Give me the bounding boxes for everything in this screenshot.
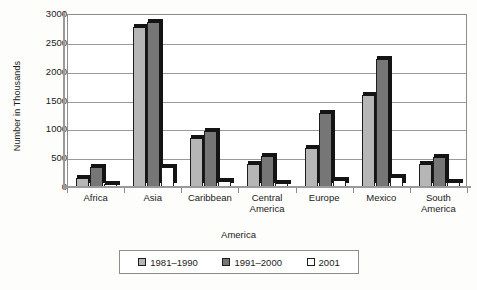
bars-layer (67, 14, 467, 187)
bar-group (67, 14, 124, 187)
bar (433, 157, 446, 187)
y-axis-tick-label: 0 (33, 182, 67, 192)
legend-swatch-icon (138, 258, 146, 266)
x-axis-tick-mark (410, 188, 411, 193)
x-axis-tick-mark (181, 188, 182, 193)
y-axis-ticks: 050010001500200025003000 (27, 14, 67, 187)
bar (376, 59, 389, 187)
x-axis-tick-label: SouthAmerica (403, 192, 473, 214)
legend-swatch-icon (222, 258, 230, 266)
y-axis-title: Number in Thousands (10, 36, 24, 176)
bar (261, 156, 274, 187)
chart-legend: 1981–1990 1991–2000 2001 (119, 250, 359, 274)
bar (204, 131, 217, 188)
legend-label: 1981–1990 (150, 257, 198, 268)
bar (90, 167, 103, 187)
x-axis-tick-mark (238, 188, 239, 193)
legend-item: 2001 (307, 257, 340, 268)
bar (161, 167, 174, 187)
bar-group (238, 14, 295, 187)
bar (147, 22, 160, 187)
legend-label: 2001 (319, 257, 340, 268)
bar-group (296, 14, 353, 187)
legend-swatch-icon (307, 258, 315, 266)
x-axis-tick-mark (353, 188, 354, 193)
y-axis-tick-label: 1000 (33, 124, 67, 134)
y-axis-line (63, 12, 65, 190)
x-axis-tick-mark (296, 188, 297, 193)
bar (419, 164, 432, 187)
y-axis-tick-label: 1500 (33, 96, 67, 106)
bar (305, 148, 318, 187)
bar-group (181, 14, 238, 187)
x-axis-tick-mark (467, 188, 468, 193)
bar-group (410, 14, 467, 187)
y-axis-tick-label: 2500 (33, 38, 67, 48)
x-axis-tick-mark (67, 188, 68, 193)
bar (190, 138, 203, 187)
bar (247, 164, 260, 187)
legend-item: 1991–2000 (222, 257, 282, 268)
legend-label: 1991–2000 (234, 257, 282, 268)
y-axis-tick-label: 500 (33, 153, 67, 163)
bar (362, 95, 375, 187)
bar-group (353, 14, 410, 187)
y-axis-tick-label: 2000 (33, 67, 67, 77)
bar (319, 113, 332, 187)
x-axis-title: America (0, 229, 477, 240)
y-axis-tick-label: 3000 (33, 9, 67, 19)
bar-group (124, 14, 181, 187)
bar (133, 27, 146, 187)
legend-item: 1981–1990 (138, 257, 198, 268)
chart-screenshot: Number in Thousands 05001000150020002500… (0, 0, 477, 290)
x-axis-tick-mark (124, 188, 125, 193)
